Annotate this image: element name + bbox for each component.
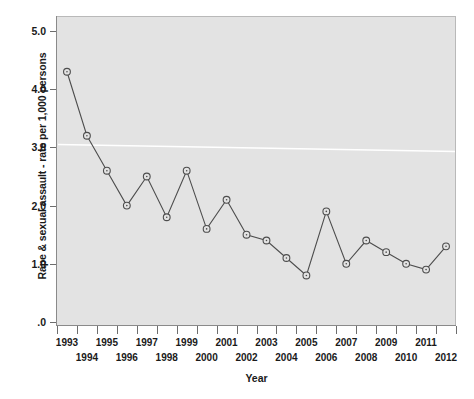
data-point-center [385, 251, 387, 253]
data-point-center [126, 205, 128, 207]
data-point-center [146, 176, 148, 178]
chart-container: Rape & sexual assault - rate per 1,000 p… [0, 0, 474, 399]
data-point-center [365, 240, 367, 242]
data-point-center [445, 246, 447, 248]
data-point-center [266, 240, 268, 242]
line-series-plot [0, 0, 474, 399]
data-point-center [86, 135, 88, 137]
series-line [67, 72, 446, 276]
reference-trend-line [58, 144, 455, 151]
data-point-center [425, 269, 427, 271]
data-point-center [226, 199, 228, 201]
data-point-center [106, 170, 108, 172]
data-point-center [246, 234, 248, 236]
data-point-center [326, 211, 328, 213]
data-point-center [66, 71, 68, 73]
x-axis-title: Year [57, 372, 456, 384]
data-point-center [345, 263, 347, 265]
data-point-center [166, 216, 168, 218]
data-point-center [186, 170, 188, 172]
data-point-center [306, 275, 308, 277]
data-point-center [405, 263, 407, 265]
data-point-center [206, 228, 208, 230]
data-point-center [286, 257, 288, 259]
